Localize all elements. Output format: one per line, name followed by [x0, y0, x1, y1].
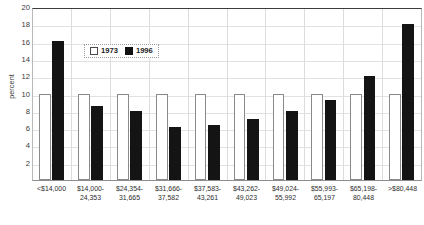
- bar-groups: [33, 9, 421, 180]
- bar-1996: [364, 76, 376, 180]
- legend-entry-1973: 1973: [90, 47, 118, 55]
- y-tick-label: 10: [12, 91, 30, 99]
- bar-group: [189, 9, 228, 180]
- x-tick-label: $14,000-24,353: [71, 184, 110, 222]
- x-tick-label: >$80,448: [383, 184, 422, 222]
- plot-area: [32, 8, 422, 181]
- y-tick-label: 4: [12, 143, 30, 151]
- bar-1996: [286, 111, 298, 180]
- y-tick-label: 8: [12, 108, 30, 116]
- bar-1973: [234, 94, 246, 181]
- bar-group: [72, 9, 111, 180]
- bar-1996: [52, 41, 64, 180]
- y-axis-tick-labels: 2018161412108642: [12, 8, 30, 181]
- bar-1973: [273, 94, 285, 181]
- x-tick-label: <$14,000: [32, 184, 71, 222]
- bar-group: [33, 9, 72, 180]
- bar-group: [266, 9, 305, 180]
- x-tick-label: $49,024-55,992: [266, 184, 305, 222]
- bar-1973: [39, 94, 51, 181]
- x-tick-label: $31,666-37,582: [149, 184, 188, 222]
- bar-1973: [350, 94, 362, 181]
- bar-1973: [78, 94, 90, 181]
- y-tick-label: 16: [12, 39, 30, 47]
- chart-legend: 1973 1996: [84, 44, 159, 58]
- legend-entry-1996: 1996: [125, 47, 153, 55]
- x-tick-label: $55,993-65,197: [305, 184, 344, 222]
- bar-1996: [402, 24, 414, 180]
- bar-1996: [169, 127, 181, 180]
- bar-1973: [156, 94, 168, 181]
- x-tick-label: $37,583-43,261: [188, 184, 227, 222]
- x-tick-label: $43,262-49,023: [227, 184, 266, 222]
- bar-group: [344, 9, 383, 180]
- y-tick-label: 18: [12, 22, 30, 30]
- bar-group: [111, 9, 150, 180]
- x-tick-label: $65,198-80,448: [344, 184, 383, 222]
- bar-1996: [130, 111, 142, 180]
- bar-group: [305, 9, 344, 180]
- y-tick-label: 14: [12, 56, 30, 64]
- bar-1996: [247, 119, 259, 180]
- y-tick-label: 12: [12, 73, 30, 81]
- bar-1973: [117, 94, 129, 181]
- bar-1973: [389, 94, 401, 181]
- bar-1996: [325, 100, 337, 180]
- bar-group: [228, 9, 267, 180]
- bar-1973: [311, 94, 323, 181]
- income-distribution-bar-chart: percent 2018161412108642 1973 1996 <$14,…: [0, 0, 424, 225]
- bar-group: [150, 9, 189, 180]
- bar-1973: [195, 94, 207, 181]
- bar-group: [383, 9, 421, 180]
- y-tick-label: 6: [12, 125, 30, 133]
- bar-1996: [208, 125, 220, 180]
- legend-label-1973: 1973: [101, 47, 118, 55]
- bar-1996: [91, 106, 103, 180]
- x-tick-label: $24,354-31,665: [110, 184, 149, 222]
- hollow-square-swatch: [90, 47, 98, 55]
- y-tick-label: 2: [12, 160, 30, 168]
- legend-label-1996: 1996: [136, 47, 153, 55]
- x-axis-tick-labels: <$14,000$14,000-24,353$24,354-31,665$31,…: [32, 184, 422, 222]
- solid-square-swatch: [125, 47, 133, 55]
- y-tick-label: 20: [12, 4, 30, 12]
